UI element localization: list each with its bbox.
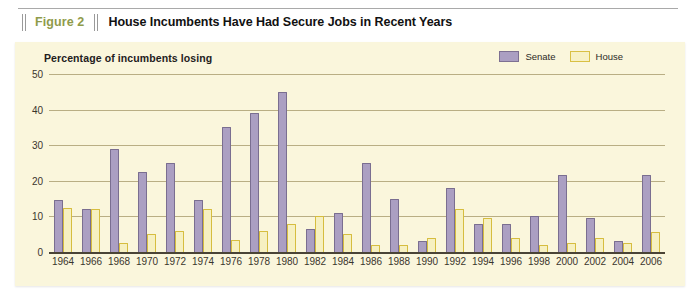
header-divider-mid: [94, 14, 98, 31]
bar-group-1990: [413, 74, 441, 252]
bar-house-2006[interactable]: [651, 232, 660, 252]
bar-house-1982[interactable]: [315, 216, 324, 252]
bar-group-1968: [105, 74, 133, 252]
bar-group-1982: [301, 74, 329, 252]
y-axis-tick-40: 40: [32, 104, 43, 115]
bar-house-1966[interactable]: [91, 209, 100, 252]
figure-title: House Incumbents Have Had Secure Jobs in…: [108, 15, 452, 29]
bar-senate-1996[interactable]: [502, 224, 511, 252]
bar-house-2000[interactable]: [567, 243, 576, 252]
y-axis-tick-0: 0: [37, 247, 43, 258]
x-axis-label-1982: 1982: [301, 256, 329, 274]
bar-senate-2002[interactable]: [586, 218, 595, 252]
y-axis-tick-50: 50: [32, 69, 43, 80]
x-axis-label-1994: 1994: [469, 256, 497, 274]
legend-label-house: House: [596, 51, 623, 62]
bar-senate-1972[interactable]: [166, 163, 175, 252]
x-axis-label-2000: 2000: [553, 256, 581, 274]
bar-house-2004[interactable]: [623, 243, 632, 252]
bar-senate-1964[interactable]: [54, 200, 63, 252]
bar-senate-1974[interactable]: [194, 200, 203, 252]
x-axis-label-1972: 1972: [161, 256, 189, 274]
bar-senate-1990[interactable]: [418, 241, 427, 252]
bar-group-1966: [77, 74, 105, 252]
bar-house-1964[interactable]: [63, 208, 72, 253]
gridline-0: 0: [49, 252, 665, 254]
bar-senate-1986[interactable]: [362, 163, 371, 252]
x-axis-label-2006: 2006: [637, 256, 665, 274]
y-axis-tick-20: 20: [32, 175, 43, 186]
bar-group-2006: [637, 74, 665, 252]
bar-group-1970: [133, 74, 161, 252]
legend-item-senate[interactable]: Senate: [499, 51, 555, 62]
x-axis-label-2002: 2002: [581, 256, 609, 274]
bar-senate-1994[interactable]: [474, 224, 483, 252]
bar-house-1992[interactable]: [455, 209, 464, 252]
x-axis-label-1992: 1992: [441, 256, 469, 274]
bar-house-1974[interactable]: [203, 209, 212, 252]
bar-senate-1998[interactable]: [530, 216, 539, 252]
bar-group-1992: [441, 74, 469, 252]
bar-house-1976[interactable]: [231, 240, 240, 252]
bar-series-container: [49, 74, 665, 252]
x-axis-label-1968: 1968: [105, 256, 133, 274]
bar-senate-1992[interactable]: [446, 188, 455, 252]
bar-house-2002[interactable]: [595, 238, 604, 252]
y-axis-tick-30: 30: [32, 140, 43, 151]
bar-house-1998[interactable]: [539, 245, 548, 252]
bar-group-1972: [161, 74, 189, 252]
x-axis-label-1990: 1990: [413, 256, 441, 274]
bar-group-1964: [49, 74, 77, 252]
bar-senate-1982[interactable]: [306, 229, 315, 252]
bar-house-1972[interactable]: [175, 231, 184, 252]
figure-header: Figure 2 House Incumbents Have Had Secur…: [18, 8, 678, 35]
bar-senate-2000[interactable]: [558, 175, 567, 252]
chart-axis-title: Percentage of incumbents losing: [44, 52, 212, 64]
bar-senate-1968[interactable]: [110, 149, 119, 252]
x-axis-label-1980: 1980: [273, 256, 301, 274]
bar-house-1980[interactable]: [287, 224, 296, 252]
bar-group-1978: [245, 74, 273, 252]
header-divider-left: [22, 14, 26, 31]
bar-house-1968[interactable]: [119, 243, 128, 252]
bar-house-1996[interactable]: [511, 238, 520, 252]
bar-senate-1976[interactable]: [222, 127, 231, 252]
x-axis-label-1984: 1984: [329, 256, 357, 274]
bar-house-1988[interactable]: [399, 245, 408, 252]
x-axis-label-1998: 1998: [525, 256, 553, 274]
bar-house-1994[interactable]: [483, 218, 492, 252]
bar-senate-1980[interactable]: [278, 92, 287, 252]
bar-senate-2006[interactable]: [642, 175, 651, 252]
bar-group-1994: [469, 74, 497, 252]
bar-senate-1966[interactable]: [82, 209, 91, 252]
bar-group-2004: [609, 74, 637, 252]
bar-house-1984[interactable]: [343, 234, 352, 252]
bar-senate-1970[interactable]: [138, 172, 147, 252]
plot-area: 01020304050: [49, 74, 665, 252]
bar-group-1998: [525, 74, 553, 252]
bar-house-1986[interactable]: [371, 245, 380, 252]
bar-house-1990[interactable]: [427, 238, 436, 252]
bar-group-1988: [385, 74, 413, 252]
figure-container: Figure 2 House Incumbents Have Had Secur…: [0, 0, 698, 294]
bar-group-1980: [273, 74, 301, 252]
chart-legend: Senate House: [499, 51, 623, 62]
bar-group-1974: [189, 74, 217, 252]
bar-house-1970[interactable]: [147, 234, 156, 252]
bar-senate-1978[interactable]: [250, 113, 259, 252]
x-axis-label-1996: 1996: [497, 256, 525, 274]
bar-senate-1988[interactable]: [390, 199, 399, 252]
bar-group-2002: [581, 74, 609, 252]
bar-senate-2004[interactable]: [614, 241, 623, 252]
x-axis-label-1986: 1986: [357, 256, 385, 274]
legend-item-house[interactable]: House: [570, 51, 623, 62]
bar-group-1996: [497, 74, 525, 252]
bar-senate-1984[interactable]: [334, 213, 343, 252]
x-axis-label-1978: 1978: [245, 256, 273, 274]
y-axis-tick-10: 10: [32, 211, 43, 222]
x-axis-label-1988: 1988: [385, 256, 413, 274]
legend-label-senate: Senate: [525, 51, 555, 62]
bar-house-1978[interactable]: [259, 231, 268, 252]
x-axis-labels: 1964196619681970197219741976197819801982…: [49, 256, 665, 274]
bar-group-1986: [357, 74, 385, 252]
